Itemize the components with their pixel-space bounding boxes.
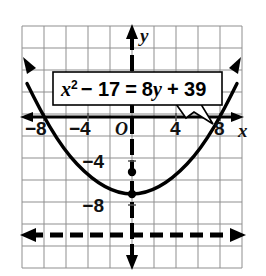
equation-minus-const: − 17 — [81, 78, 120, 100]
equation-exponent: 2 — [71, 78, 78, 92]
equation-plus-const: + 39 — [167, 78, 206, 100]
x-tick-label--4: −4 — [69, 118, 91, 139]
equation-text: x2− 17=8y+ 39 — [60, 78, 206, 101]
y-tick-label--8: −8 — [82, 195, 104, 216]
y-axis-name: y — [138, 25, 149, 46]
origin-label: O — [115, 119, 128, 139]
equation-var-y: y — [151, 78, 162, 101]
x-tick-label--8: −8 — [25, 118, 47, 139]
focus-point — [128, 168, 136, 176]
parabola-graph-figure: −8 −4 4 8 −4 −8 O x y x2− 17=8y+ 39 — [0, 0, 266, 276]
equation-coef-y: 8 — [142, 78, 153, 100]
coordinate-plane-svg: −8 −4 4 8 −4 −8 O x y x2− 17=8y+ 39 — [0, 0, 266, 276]
vertex-point — [128, 190, 136, 198]
equation-equals: = — [125, 78, 137, 100]
equation-var-x: x — [60, 78, 71, 100]
x-axis-name: x — [237, 120, 248, 141]
x-tick-label-8: 8 — [214, 118, 225, 139]
x-tick-label-4: 4 — [170, 118, 181, 139]
y-tick-label--4: −4 — [82, 151, 104, 172]
